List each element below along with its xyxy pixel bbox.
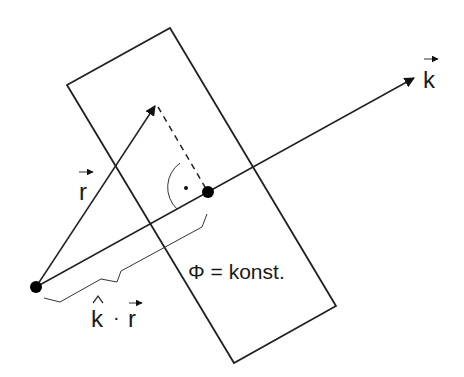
k-vector-label: k bbox=[423, 66, 436, 93]
projection-brace bbox=[44, 214, 207, 302]
right-angle-arc bbox=[168, 163, 180, 209]
r-vector-label: r bbox=[79, 178, 87, 205]
projection-point bbox=[202, 186, 214, 198]
projection-dashed-line bbox=[158, 107, 208, 192]
k-vector-arrow bbox=[36, 78, 414, 287]
plane-wave-diagram: k r k · r Φ = konst. bbox=[0, 0, 464, 377]
phase-constant-label: Φ = konst. bbox=[188, 260, 285, 283]
origin-point bbox=[30, 281, 42, 293]
projection-r-label: r bbox=[128, 305, 136, 332]
hat-icon bbox=[93, 296, 103, 303]
projection-label: k · r bbox=[91, 296, 142, 332]
projection-dot-label: · bbox=[113, 306, 120, 328]
right-angle-dot bbox=[184, 186, 188, 190]
projection-k-label: k bbox=[91, 305, 104, 332]
